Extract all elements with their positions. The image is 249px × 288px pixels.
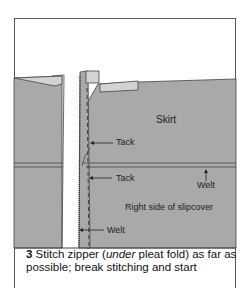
label-skirt: Skirt (156, 114, 176, 125)
label-tack-lower: Tack (116, 173, 135, 183)
label-welt-right: Welt (197, 180, 215, 190)
caption-text-1: Stitch zipper ( (32, 248, 106, 260)
label-tack-upper: Tack (116, 137, 135, 147)
label-right-side-of-slipcover: Right side of slipcover (125, 202, 213, 212)
caption: 3 Stitch zipper (under pleat fold) as fa… (26, 248, 241, 274)
label-welt-lower: Welt (107, 225, 125, 235)
caption-italic: under (106, 248, 135, 260)
